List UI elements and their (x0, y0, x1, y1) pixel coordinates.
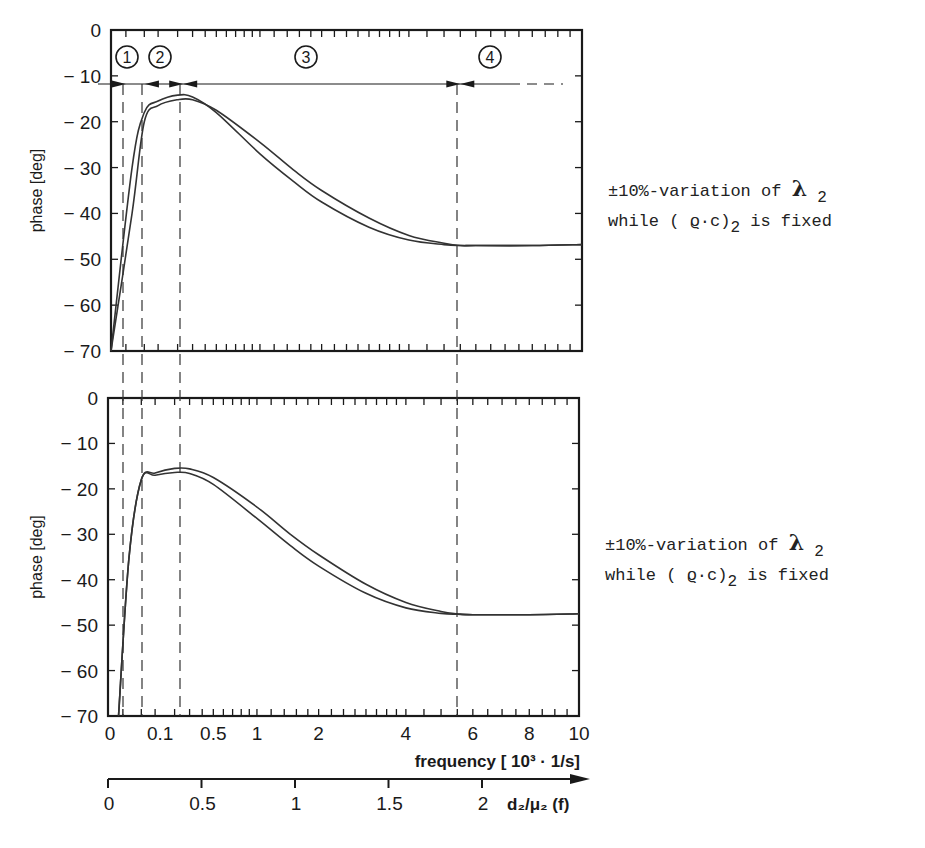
subscript: 2 (727, 573, 737, 591)
arrowhead-icon (460, 81, 474, 88)
y-tick-label: − 70 (60, 706, 98, 727)
y-tick-label: − 40 (60, 570, 98, 591)
phase-curve-1 (119, 468, 579, 716)
arrowhead-icon (145, 81, 159, 88)
note-line1: ±10%-variation of (608, 182, 792, 201)
lambda-symbol: λ (789, 529, 804, 555)
x-tick-label: 8 (524, 723, 535, 744)
y-tick-label: − 40 (63, 203, 101, 224)
y-tick-label: − 50 (63, 249, 101, 270)
phase-curve-1 (111, 95, 582, 351)
note-line2c: is fixed (740, 212, 832, 231)
x-tick-label: 4 (401, 723, 412, 744)
x-tick-label: 1 (252, 723, 263, 744)
x-tick-label: 0 (105, 723, 116, 744)
y-tick-label: − 50 (60, 615, 98, 636)
subscript: 2 (730, 219, 740, 237)
secondary-tick-label: 1.5 (376, 793, 402, 814)
y-tick-label: − 30 (63, 158, 101, 179)
lambda-symbol: λ (792, 175, 807, 201)
arrowhead-icon (169, 81, 183, 88)
note-line2b: ·c) (700, 212, 731, 231)
region-label: 4 (486, 49, 495, 66)
note-line2a: while ( (608, 212, 690, 231)
rho-symbol: ϱ (690, 212, 700, 231)
secondary-tick-label: 0.5 (189, 793, 215, 814)
note-line2c: is fixed (737, 566, 829, 585)
lower-chart: 0− 10− 20− 30− 40− 50− 60− 70phase [deg]… (28, 388, 590, 771)
y-tick-label: − 10 (60, 433, 98, 454)
secondary-tick-label: 0 (104, 793, 115, 814)
plot-frame (111, 30, 582, 351)
phase-figure: 0− 10− 20− 30− 40− 50− 60− 70phase [deg]… (0, 0, 925, 848)
x-tick-label: 6 (468, 723, 479, 744)
x-tick-label: 2 (313, 723, 324, 744)
y-tick-label: − 60 (60, 661, 98, 682)
x-axis-label: frequency [ 10³ · 1/s] (415, 752, 580, 771)
x-tick-label: 10 (568, 723, 589, 744)
y-tick-label: − 10 (63, 66, 101, 87)
x-tick-label: 0.5 (200, 723, 226, 744)
subscript: 2 (814, 543, 824, 561)
y-tick-label: − 20 (63, 112, 101, 133)
y-tick-label: − 30 (60, 524, 98, 545)
y-tick-label: 0 (90, 20, 101, 41)
upper-annotation: ±10%-variation of λ 2 while ( ϱ·c)2 is f… (608, 176, 832, 240)
rho-symbol: ϱ (687, 566, 697, 585)
secondary-axis-d2-mu2: 00.511.52d₂/μ₂ (f) (104, 774, 590, 814)
secondary-tick-label: 1 (291, 793, 302, 814)
region-label: 1 (123, 49, 132, 66)
y-tick-label: − 60 (63, 295, 101, 316)
subscript: 2 (817, 189, 827, 207)
y-tick-label: − 70 (63, 341, 101, 362)
region-label: 3 (302, 49, 311, 66)
y-axis-label: phase [deg] (28, 149, 45, 233)
axis-arrow-icon (570, 774, 590, 784)
arrowhead-icon (183, 81, 197, 88)
region-label: 2 (156, 49, 165, 66)
secondary-axis-label: d₂/μ₂ (f) (507, 795, 569, 814)
y-tick-label: 0 (87, 388, 98, 409)
phase-curve-2 (119, 472, 579, 716)
secondary-tick-label: 2 (478, 793, 489, 814)
arrowhead-icon (446, 81, 460, 88)
lower-annotation: ±10%-variation of λ 2 while ( ϱ·c)2 is f… (605, 530, 829, 594)
note-line1: ±10%-variation of (605, 536, 789, 555)
plot-frame (108, 398, 579, 716)
y-axis-label: phase [deg] (28, 515, 45, 599)
y-tick-label: − 20 (60, 479, 98, 500)
phase-curve-2 (111, 99, 582, 351)
note-line2a: while ( (605, 566, 687, 585)
arrowhead-icon (112, 81, 126, 88)
upper-chart: 0− 10− 20− 30− 40− 50− 60− 70phase [deg]… (28, 20, 582, 362)
note-line2b: ·c) (697, 566, 728, 585)
x-tick-label: 0.1 (147, 723, 173, 744)
